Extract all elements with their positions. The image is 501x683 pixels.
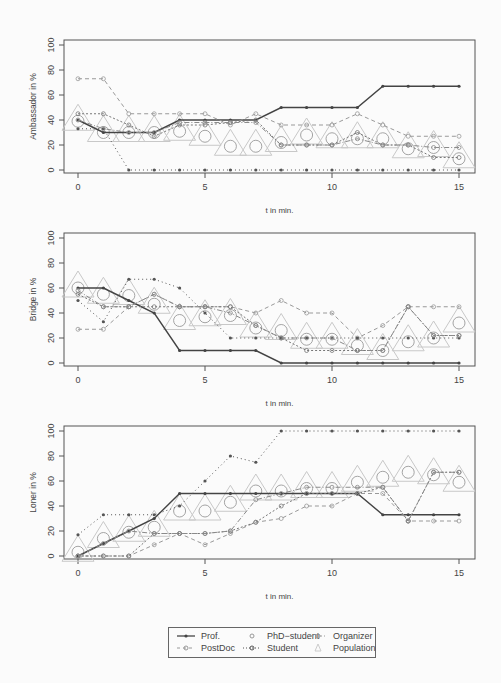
point-marker — [127, 168, 130, 171]
population-circle — [250, 485, 262, 497]
population-triangle — [367, 122, 399, 148]
point-marker — [76, 127, 79, 130]
point-marker — [178, 168, 181, 171]
population-circle — [351, 476, 363, 488]
population-triangle — [392, 455, 424, 481]
population-circle — [402, 466, 414, 478]
series-line — [78, 120, 459, 148]
point-marker — [76, 533, 79, 536]
population-circle — [250, 140, 262, 152]
point-marker — [407, 168, 410, 171]
y-tick-label: 80 — [46, 65, 56, 75]
point-marker — [330, 123, 334, 127]
population-triangle — [113, 515, 145, 541]
population-circle — [275, 325, 287, 337]
triangle-marker-icon — [307, 642, 331, 654]
point-marker — [254, 168, 257, 171]
y-tick-label: 20 — [46, 526, 56, 536]
point-marker — [432, 513, 435, 516]
point-marker — [305, 361, 308, 364]
point-marker — [127, 299, 130, 302]
loner-chart: 020406080100051015t in min.Loner in % — [0, 414, 501, 604]
population-circle — [453, 317, 465, 329]
population-circle — [174, 315, 186, 327]
x-axis-label: t in min. — [265, 206, 293, 215]
point-marker — [356, 361, 359, 364]
point-marker — [407, 513, 410, 516]
population-triangle — [189, 494, 221, 520]
point-marker — [432, 429, 435, 432]
point-marker — [457, 85, 460, 88]
population-circle — [199, 505, 211, 517]
point-marker — [229, 168, 232, 171]
y-axis-label: Bridge in % — [28, 277, 38, 321]
y-tick-label: 40 — [46, 501, 56, 511]
dashed-line-icon — [175, 642, 199, 654]
population-triangle — [291, 118, 323, 144]
point-marker — [153, 168, 156, 171]
point-marker — [153, 311, 156, 314]
point-marker — [229, 336, 232, 339]
ambassador-chart: 020406080100051015t in min.Ambassador in… — [0, 28, 501, 218]
point-marker — [457, 513, 460, 516]
point-marker — [76, 299, 79, 302]
point-marker — [102, 286, 105, 289]
population-triangle — [240, 474, 272, 500]
point-marker — [432, 168, 435, 171]
point-marker — [381, 123, 385, 127]
point-marker — [407, 361, 410, 364]
point-marker — [381, 168, 384, 171]
y-tick-label: 100 — [46, 230, 56, 245]
point-marker — [457, 168, 460, 171]
point-marker — [381, 361, 384, 364]
y-axis-label: Ambassador in % — [28, 73, 38, 140]
y-tick-label: 40 — [46, 308, 56, 318]
y-tick-label: 100 — [46, 37, 56, 52]
population-circle — [453, 476, 465, 488]
x-tick-label: 5 — [202, 375, 207, 385]
point-marker — [406, 134, 410, 138]
point-marker — [102, 513, 105, 516]
point-marker — [203, 168, 206, 171]
point-marker — [229, 349, 232, 352]
point-marker — [381, 336, 384, 339]
point-marker — [432, 85, 435, 88]
population-triangle — [87, 277, 119, 303]
point-marker — [279, 299, 283, 303]
x-tick-label: 0 — [75, 182, 80, 192]
point-marker — [457, 429, 460, 432]
solid-line-icon — [175, 630, 199, 642]
point-marker — [330, 106, 333, 109]
population-circle — [199, 130, 211, 142]
point-marker — [178, 349, 181, 352]
y-tick-label: 40 — [46, 115, 56, 125]
plot-frame — [64, 40, 475, 173]
x-tick-label: 15 — [454, 568, 464, 578]
point-marker — [153, 517, 156, 520]
population-circle — [301, 129, 313, 141]
ambassador-plot: 020406080100051015t in min.Ambassador in… — [0, 28, 501, 218]
series-line — [78, 431, 459, 535]
point-marker — [330, 361, 333, 364]
population-triangle — [367, 460, 399, 486]
point-marker — [356, 336, 359, 339]
population-triangle — [418, 458, 450, 484]
point-marker — [407, 336, 410, 339]
point-marker — [153, 513, 156, 516]
point-marker — [203, 349, 206, 352]
population-triangle — [443, 465, 475, 491]
point-marker — [280, 168, 283, 171]
x-axis-label: t in min. — [265, 399, 293, 408]
series-line — [78, 288, 459, 363]
y-tick-label: 80 — [46, 258, 56, 268]
point-marker — [381, 85, 384, 88]
population-triangle — [316, 322, 348, 348]
population-triangle — [214, 299, 246, 325]
point-marker — [254, 349, 257, 352]
population-triangle — [62, 104, 94, 130]
loner-plot: 020406080100051015t in min.Loner in % — [0, 414, 501, 604]
point-marker — [280, 361, 283, 364]
population-triangle — [214, 485, 246, 511]
point-marker — [127, 278, 130, 281]
point-marker — [254, 336, 257, 339]
